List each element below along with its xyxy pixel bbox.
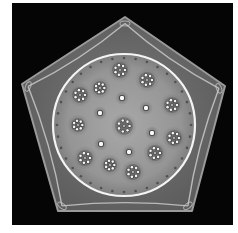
rosette (108, 58, 132, 82)
rosette (89, 77, 111, 99)
rosette (111, 113, 137, 139)
rosette (68, 83, 92, 107)
rosette (143, 141, 167, 165)
rosette (135, 68, 159, 92)
pore-spot (93, 106, 107, 120)
pore-spot (94, 137, 108, 151)
pore-spot (145, 126, 159, 140)
rosette (121, 160, 145, 184)
rosette (73, 146, 97, 170)
rosette (160, 93, 184, 117)
pore-spot (139, 101, 153, 115)
pore-spot (122, 145, 136, 159)
specimen-micrograph (0, 0, 238, 233)
rosette (99, 154, 121, 176)
rosette (162, 126, 186, 150)
pore-spot (115, 91, 129, 105)
rosette (67, 114, 89, 136)
